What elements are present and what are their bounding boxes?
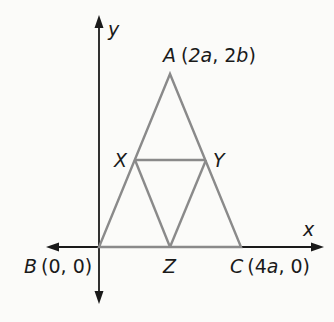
x-axis-label: x: [302, 218, 315, 240]
point-y-label: Y: [213, 149, 226, 171]
y-axis-up-arrow-icon: [95, 15, 104, 28]
segment-xz: [135, 160, 170, 247]
point-b-label: B(0, 0): [24, 255, 92, 277]
point-c-label: C(4a, 0): [230, 255, 310, 277]
y-axis-down-arrow-icon: [95, 291, 104, 304]
x-axis-right-arrow-icon: [311, 243, 324, 252]
point-a-label: A(2a, 2b): [161, 44, 256, 66]
coordinate-diagram: y x A(2a, 2b) X Y Z B(0, 0) C(4a, 0): [0, 0, 334, 322]
y-axis: [95, 15, 104, 304]
y-axis-label: y: [107, 18, 120, 40]
x-axis-left-arrow-icon: [46, 243, 59, 252]
point-x-label: X: [113, 149, 128, 171]
point-z-label: Z: [162, 255, 177, 277]
segment-yz: [170, 160, 206, 247]
